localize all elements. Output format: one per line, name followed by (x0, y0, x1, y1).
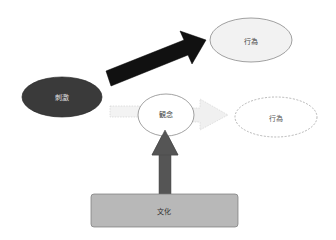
diagram-canvas (0, 0, 336, 240)
dashed-arrow-idea-to-action (193, 99, 228, 130)
dashed-arrow-stimulus-to-idea (110, 106, 140, 117)
label-culture: 文化 (157, 206, 171, 216)
label-action-dashed: 行為 (269, 113, 283, 123)
label-stimulus: 刺激 (55, 92, 69, 102)
label-action-top: 行為 (244, 36, 258, 46)
label-idea: 観念 (159, 109, 173, 119)
arrow-stimulus-to-action (106, 31, 206, 86)
